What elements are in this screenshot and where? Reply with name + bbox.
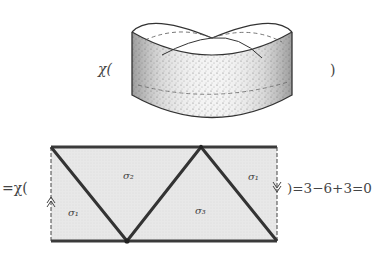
chi-open-bottom: =χ( (2, 180, 28, 196)
euler-characteristic-result: )=3−6+3=0 (287, 180, 372, 196)
paren-close-top: ) (330, 62, 335, 78)
region-label-sigma3: σ₃ (195, 205, 206, 216)
region-label-sigma1-right: σ₁ (248, 171, 259, 182)
chi-open-top: χ( (98, 61, 112, 77)
figure-canvas (0, 0, 386, 257)
triangulated-rectangle (51, 145, 277, 244)
region-label-sigma2: σ₂ (123, 170, 134, 181)
band-illustration (132, 23, 292, 117)
region-label-sigma1-left: σ₁ (68, 207, 79, 218)
